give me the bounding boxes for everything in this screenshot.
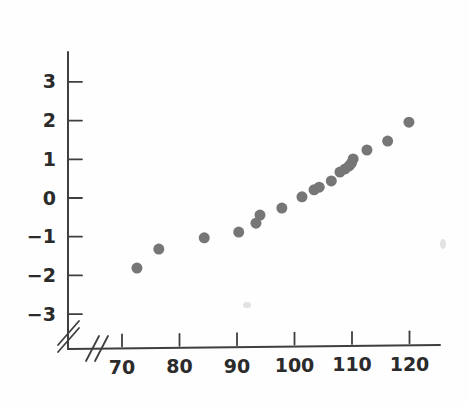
- data-point: [296, 191, 307, 202]
- x-tick-label: 110: [332, 353, 372, 375]
- x-tick-label: 120: [390, 353, 430, 375]
- data-point: [153, 244, 164, 255]
- data-point: [361, 145, 372, 156]
- x-tick-label: 90: [224, 355, 250, 377]
- data-point: [382, 136, 393, 147]
- data-point: [131, 263, 142, 274]
- data-point: [233, 227, 244, 238]
- plot-canvas: −3−2−10123 708090100110120: [0, 0, 468, 406]
- data-point: [276, 203, 287, 214]
- x-tick-label: 70: [109, 356, 135, 378]
- y-tick-label: 1: [43, 148, 56, 170]
- y-axis-ticks: [68, 82, 82, 314]
- data-point: [326, 175, 337, 186]
- x-tick-label: 100: [275, 354, 315, 376]
- x-axis-line: [68, 345, 440, 349]
- data-point: [314, 182, 325, 193]
- y-tick-label: 2: [43, 109, 56, 131]
- y-tick-label: 0: [43, 187, 56, 209]
- data-point: [403, 117, 414, 128]
- data-point: [348, 153, 359, 164]
- y-tick-label: 3: [43, 70, 56, 92]
- paper-speck: [440, 239, 446, 249]
- y-tick-label: −2: [27, 264, 56, 286]
- paper-speck: [243, 302, 251, 308]
- scatter-plot-figure: −3−2−10123 708090100110120: [0, 0, 468, 406]
- y-tick-label: −3: [27, 303, 56, 325]
- data-point-series: [131, 117, 414, 274]
- y-tick-label: −1: [27, 225, 56, 247]
- x-axis-ticks: [122, 331, 410, 346]
- data-point: [199, 232, 210, 243]
- y-axis-tick-labels: −3−2−10123: [27, 70, 56, 324]
- data-point: [255, 210, 266, 221]
- x-tick-label: 80: [166, 355, 192, 377]
- x-axis-tick-labels: 708090100110120: [109, 353, 430, 378]
